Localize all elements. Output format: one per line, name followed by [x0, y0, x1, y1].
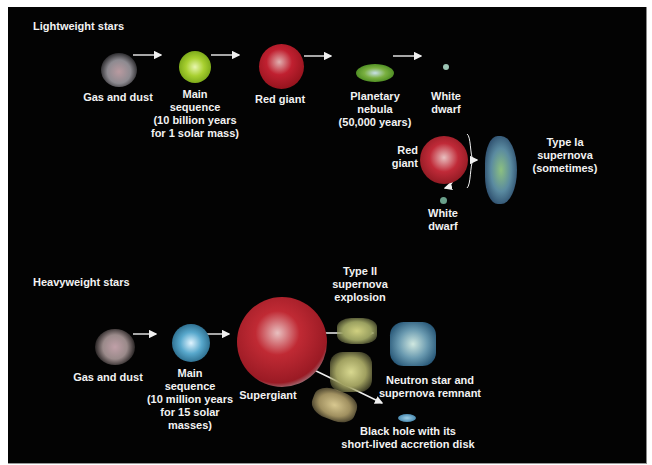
stage-label: Mainsequence(10 billion yearsfor 1 solar…	[140, 88, 250, 140]
black-hole-accretion-disk	[398, 414, 416, 422]
supernova-debris	[330, 352, 372, 392]
gas-dust-cloud-heavy	[95, 329, 135, 365]
red-giant-light	[259, 44, 304, 89]
neutron-star-remnant	[390, 322, 436, 366]
white-dwarf	[443, 64, 449, 70]
black-hole-label: Black hole with itsshort-lived accretion…	[335, 425, 481, 451]
binary-red-giant-label: Redgiant	[378, 144, 418, 170]
lightweight-title: Lightweight stars	[33, 20, 124, 32]
main-sequence-star-heavy	[172, 324, 210, 362]
type-ii-supernova-label: Type IIsupernovaexplosion	[320, 265, 400, 304]
stage-label: Planetarynebula(50,000 years)	[325, 90, 425, 129]
heavyweight-title: Heavyweight stars	[33, 276, 130, 288]
binary-white-dwarf	[440, 197, 447, 204]
binary-white-dwarf-label: Whitedwarf	[417, 207, 469, 233]
type-ia-supernova-label: Type Iasupernova(sometimes)	[520, 136, 610, 175]
supergiant	[237, 297, 327, 387]
stage-label: Whitedwarf	[420, 90, 472, 116]
gas-dust-cloud	[101, 53, 137, 87]
type-ia-supernova	[485, 136, 517, 204]
binary-red-giant	[420, 136, 468, 184]
stage-label: Red giant	[240, 93, 320, 106]
supernova-debris	[337, 318, 377, 344]
neutron-star-label: Neutron star andsupernova remnant	[372, 374, 488, 400]
planetary-nebula	[356, 64, 394, 82]
stage-label: Supergiant	[228, 389, 308, 402]
main-sequence-star-light	[179, 51, 211, 83]
